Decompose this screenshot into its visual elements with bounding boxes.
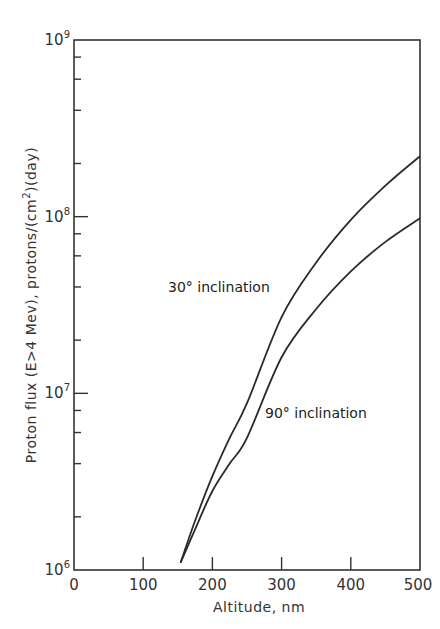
x-tick-label: 200 bbox=[198, 576, 227, 594]
x-tick-label: 100 bbox=[129, 576, 158, 594]
proton-flux-chart: 106107108109 0100200300400500 30° inclin… bbox=[0, 0, 440, 629]
curve-label-90-inclination: 90° inclination bbox=[265, 405, 367, 421]
y-tick-label: 108 bbox=[45, 206, 70, 226]
x-axis-ticks: 0100200300400500 bbox=[69, 557, 432, 594]
y-tick-label: 106 bbox=[45, 559, 70, 579]
curve-label-30-inclination: 30° inclination bbox=[168, 279, 270, 295]
plot-border bbox=[74, 40, 420, 570]
x-axis-title: Altitude, nm bbox=[213, 599, 305, 615]
x-tick-label: 0 bbox=[69, 576, 79, 594]
y-axis-ticks: 106107108109 bbox=[45, 29, 88, 579]
x-tick-label: 300 bbox=[267, 576, 296, 594]
curve-30-inclination bbox=[181, 156, 420, 563]
curve-90-inclination bbox=[181, 218, 420, 563]
y-axis-title: Proton flux (E>4 Mev), protons/(cm2)(day… bbox=[21, 147, 39, 463]
plot-frame bbox=[74, 40, 420, 570]
data-curves bbox=[181, 156, 420, 563]
y-tick-label: 107 bbox=[45, 382, 70, 402]
x-tick-label: 500 bbox=[404, 576, 433, 594]
y-tick-label: 109 bbox=[45, 29, 70, 49]
x-tick-label: 400 bbox=[336, 576, 365, 594]
